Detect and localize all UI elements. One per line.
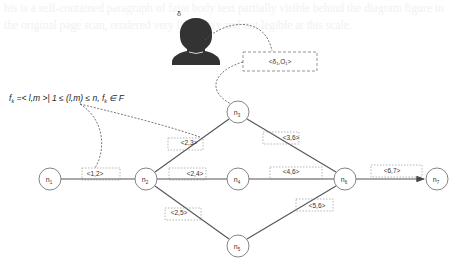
edge-label-2-3: <2,3> <box>181 139 198 146</box>
edge-label-boxes <box>82 132 422 220</box>
user-tag-connector <box>205 24 272 51</box>
flow-formula: fk =< l,m >| 1 ≤ (l,m) ≤ n, fk ∈ F <box>9 93 125 104</box>
edge-label-4-6: <4,6> <box>283 168 300 175</box>
edge-3-6 <box>247 119 336 172</box>
formula-connector-edge-1-2 <box>80 104 102 168</box>
edge-label-3-6: <3,6> <box>283 134 300 141</box>
node-n6: n6 <box>334 168 356 190</box>
node-n1: n1 <box>39 168 61 190</box>
user-label: δ <box>177 10 181 17</box>
network-diagram: <1,2> <2,3> <2,4> <2,5> <3,6> <4,6> <5,6… <box>0 0 462 270</box>
edge-label-6-7: <6,7> <box>384 167 401 174</box>
edge-2-5 <box>155 186 229 239</box>
user-tag-label: <δ₁,O₁> <box>269 58 292 65</box>
node-n7: n7 <box>426 168 448 190</box>
tag-to-node-connector <box>216 62 243 104</box>
formula-connector-edge-2-3 <box>80 104 200 137</box>
edge-label-5-6: <5,6> <box>309 202 326 209</box>
node-n2: n2 <box>135 168 157 190</box>
edge-label-1-2: <1,2> <box>87 170 104 177</box>
edge-label-2-4: <2,4> <box>187 170 204 177</box>
person-icon <box>172 18 220 65</box>
edge-label-2-5: <2,5> <box>171 209 188 216</box>
node-n4: n4 <box>227 168 249 190</box>
node-n5: n5 <box>227 235 249 257</box>
edge-5-6 <box>247 186 336 239</box>
node-n3: n3 <box>227 101 249 123</box>
